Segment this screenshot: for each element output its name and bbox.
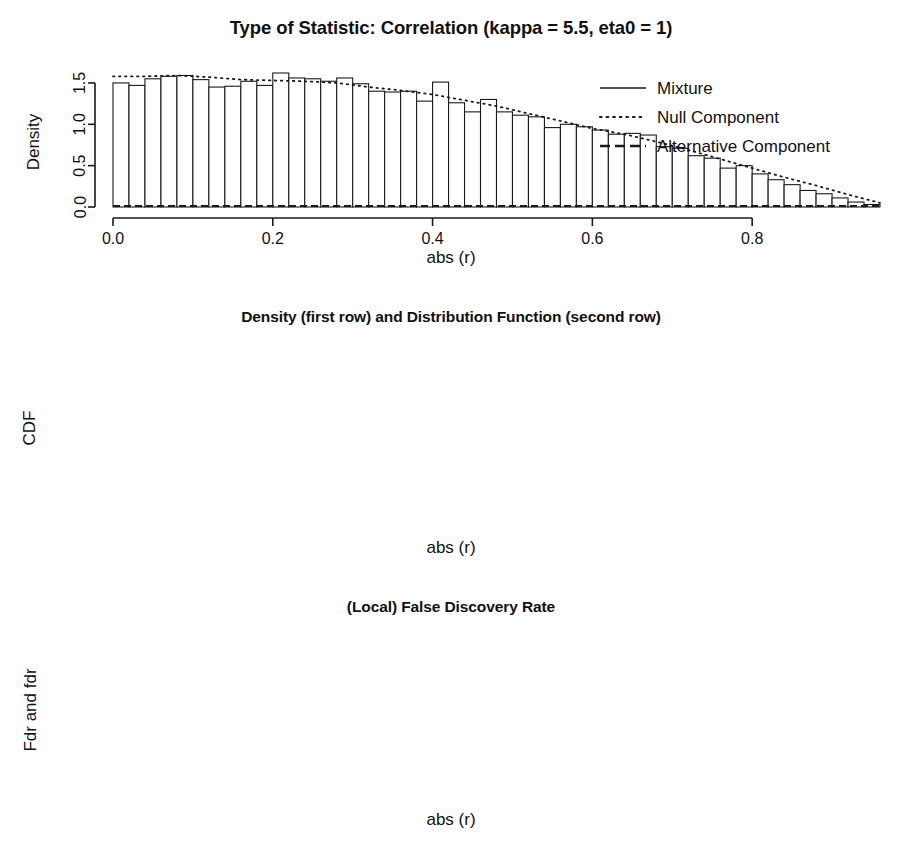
histogram-bar — [512, 115, 528, 207]
histogram-bar — [736, 166, 752, 207]
histogram-bar — [257, 85, 273, 207]
legend-item-alternative-component-label: Alternative Component — [657, 137, 830, 156]
histogram-bar — [720, 168, 736, 207]
histogram-bar — [401, 91, 417, 207]
histogram-bar — [624, 133, 640, 207]
legend-item-null-component-label: Null Component — [657, 108, 779, 127]
histogram-bar — [752, 174, 768, 207]
histogram-bar — [177, 75, 193, 207]
density-x-tick-label: 0.6 — [581, 230, 603, 247]
fdr-panel: (Local) False Discovery Rate abs (r) Fdr… — [0, 580, 902, 862]
histogram-bar — [544, 128, 560, 207]
histogram-bar — [449, 103, 465, 207]
fdrtool-figure: Type of Statistic: Correlation (kappa = … — [0, 0, 902, 862]
histogram-bar — [225, 86, 241, 207]
cdf-plot-area: 0.00.40.80.00.20.40.60.8 — [0, 290, 902, 580]
histogram-bar — [688, 156, 704, 207]
histogram-bar — [768, 180, 784, 207]
density-x-tick-label: 0.4 — [421, 230, 443, 247]
density-y-tick-label: 0.5 — [72, 154, 89, 176]
histogram-bar — [497, 112, 513, 207]
histogram-bar — [369, 91, 385, 207]
histogram-bar — [465, 112, 481, 207]
histogram-bar — [161, 76, 177, 207]
histogram-bar — [193, 80, 209, 207]
histogram-bar — [353, 84, 369, 207]
density-y-tick-label: 0.0 — [72, 196, 89, 218]
histogram-bar — [305, 79, 321, 207]
fdr-plot-area: 0.00.40.80.00.20.40.60.8fdr (density−bas… — [0, 580, 902, 862]
histogram-bar — [672, 148, 688, 207]
histogram-bar — [784, 185, 800, 207]
histogram-bar — [337, 78, 353, 207]
density-y-tick-label: 1.0 — [72, 113, 89, 135]
density-x-tick-label: 0.8 — [741, 230, 763, 247]
density-panel: Type of Statistic: Correlation (kappa = … — [0, 0, 902, 290]
histogram-bar — [129, 85, 145, 207]
histogram-bar — [417, 101, 433, 207]
histogram-bar — [592, 130, 608, 207]
histogram-bar — [289, 78, 305, 207]
histogram-bar — [145, 79, 161, 207]
density-plot-area: 0.00.51.01.50.00.20.40.60.8MixtureNull C… — [0, 0, 902, 290]
histogram-bar — [209, 87, 225, 207]
histogram-bar — [576, 127, 592, 207]
histogram-bar — [481, 99, 497, 207]
density-x-tick-label: 0.0 — [102, 230, 124, 247]
density-y-tick-label: 1.5 — [72, 72, 89, 94]
histogram-bar — [640, 135, 656, 207]
cdf-panel: Density (first row) and Distribution Fun… — [0, 290, 902, 580]
histogram-bar — [385, 92, 401, 207]
histogram-bar — [704, 158, 720, 207]
histogram-bar — [528, 117, 544, 207]
histogram-bar — [273, 73, 289, 207]
legend-item-mixture-label: Mixture — [657, 79, 713, 98]
histogram-bar — [560, 124, 576, 207]
histogram-bar — [241, 81, 257, 207]
histogram-bar — [321, 81, 337, 207]
density-x-tick-label: 0.2 — [262, 230, 284, 247]
histogram-bar — [113, 83, 129, 207]
histogram-bar — [433, 82, 449, 207]
histogram-bar — [800, 190, 816, 207]
